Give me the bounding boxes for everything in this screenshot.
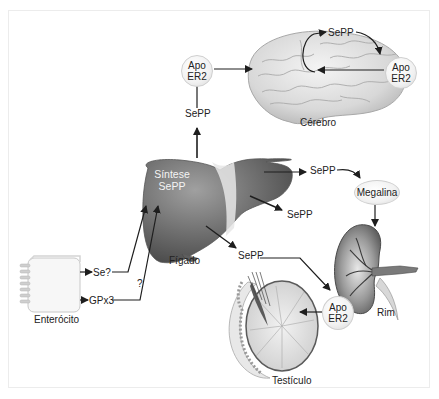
apoer2-line1: Apo: [188, 60, 206, 71]
apoer2-line1: Apo: [392, 62, 410, 73]
megalin-receptor: Megalina: [354, 180, 400, 205]
label-question-mark: ?: [137, 278, 143, 289]
label-enterocito: Enterócito: [34, 314, 79, 325]
label-sepp-brain-cycle: SePP: [328, 27, 354, 38]
label-sepp-testis: SePP: [238, 250, 264, 261]
synthesis-line1: Síntese: [150, 168, 194, 180]
label-cerebro: Cérebro: [300, 117, 336, 128]
label-sepp-up: SePP: [185, 108, 211, 119]
label-rim: Rim: [377, 307, 395, 318]
apoer2-testis: Apo ER2: [322, 296, 354, 330]
label-figado: Fígado: [169, 255, 200, 266]
label-gpx3: GPx3: [89, 295, 114, 306]
label-se-question: Se?: [93, 267, 111, 278]
apoer2-line2: ER2: [328, 313, 347, 324]
label-sepp-middle: SePP: [287, 209, 313, 220]
brain-illustration: [248, 31, 406, 124]
liver-synthesis-label: Síntese SePP: [150, 168, 194, 192]
apoer2-line2: ER2: [187, 71, 206, 82]
megalin-label: Megalina: [357, 187, 398, 198]
apoer2-brain-right: Apo ER2: [385, 57, 417, 89]
testis-illustration: [229, 272, 318, 378]
label-testiculo: Testículo: [272, 375, 311, 386]
synthesis-line2: SePP: [150, 180, 194, 192]
label-sepp-kidney: SePP: [310, 165, 336, 176]
apoer2-line2: ER2: [391, 73, 410, 84]
enterocyte-illustration: [20, 256, 80, 312]
apoer2-line1: Apo: [329, 302, 347, 313]
apoer2-brain-left: Apo ER2: [181, 55, 213, 87]
